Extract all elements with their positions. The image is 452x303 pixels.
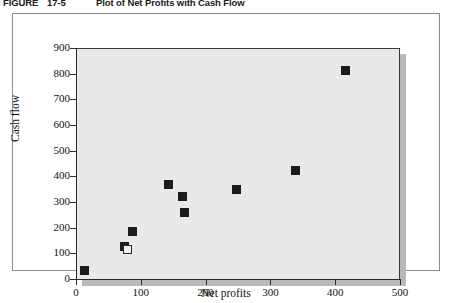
y-tick-label-wrap: 900 — [18, 48, 70, 49]
y-tick-label: 900 — [24, 41, 70, 53]
y-tick-label: 300 — [24, 195, 70, 207]
x-axis-line — [76, 279, 401, 280]
y-tick-label: 500 — [24, 144, 70, 156]
y-tick-label-wrap: 0 — [18, 279, 70, 280]
y-tick-mark — [70, 151, 76, 152]
y-tick-label-wrap: 300 — [18, 202, 70, 203]
y-tick-label-wrap: 400 — [18, 176, 70, 177]
data-point — [178, 192, 187, 201]
y-tick-mark — [70, 228, 76, 229]
data-point — [341, 66, 350, 75]
y-tick-label-wrap: 600 — [18, 125, 70, 126]
y-tick-label-wrap: 200 — [18, 228, 70, 229]
y-axis-line — [76, 48, 77, 280]
y-tick-mark — [70, 176, 76, 177]
y-tick-label-wrap: 800 — [18, 74, 70, 75]
y-tick-label-wrap: 700 — [18, 99, 70, 100]
x-tick-mark — [270, 279, 271, 285]
data-point — [80, 266, 89, 275]
x-tick-mark — [335, 279, 336, 285]
data-point — [123, 245, 132, 254]
data-point — [232, 185, 241, 194]
y-tick-mark — [70, 125, 76, 126]
y-tick-mark — [70, 99, 76, 100]
data-point — [128, 227, 137, 236]
figure-header: FIGURE 17-5 Plot of Net Profits with Cas… — [0, 0, 452, 10]
data-point — [164, 180, 173, 189]
y-axis-title: Cash flow — [9, 95, 21, 142]
y-tick-label: 600 — [24, 118, 70, 130]
figure-number: 17-5 — [47, 0, 66, 8]
y-tick-label: 100 — [24, 246, 70, 258]
y-tick-label: 200 — [24, 221, 70, 233]
y-tick-label: 0 — [24, 272, 70, 284]
x-axis-title: Net profits — [0, 287, 452, 299]
data-point — [180, 208, 189, 217]
x-tick-mark — [400, 279, 401, 285]
x-tick-mark — [76, 279, 77, 285]
y-tick-label: 400 — [24, 169, 70, 181]
data-point — [291, 166, 300, 175]
y-tick-mark — [70, 48, 76, 49]
figure-caption: Plot of Net Profits with Cash Flow — [96, 0, 245, 8]
figure-label: FIGURE — [3, 0, 38, 8]
y-tick-mark — [70, 253, 76, 254]
x-tick-mark — [141, 279, 142, 285]
figure-card: 0100200300400500600700800900 01002003004… — [12, 13, 440, 271]
y-tick-mark — [70, 74, 76, 75]
y-tick-label: 800 — [24, 67, 70, 79]
y-tick-label: 700 — [24, 92, 70, 104]
x-tick-mark — [206, 279, 207, 285]
y-tick-label-wrap: 100 — [18, 253, 70, 254]
y-tick-label-wrap: 500 — [18, 151, 70, 152]
y-tick-mark — [70, 202, 76, 203]
